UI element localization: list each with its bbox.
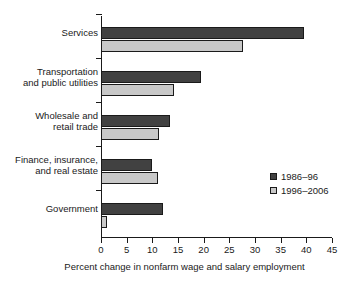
- bar-0: [101, 115, 170, 127]
- x-axis-tick: [178, 238, 179, 243]
- category-label: Transportationand public utilities: [0, 66, 98, 89]
- bar-group: [101, 196, 332, 240]
- category-label-line: retail trade: [0, 121, 98, 133]
- y-axis-tick: [96, 146, 102, 147]
- x-axis-tick: [101, 238, 102, 243]
- category-label-line: and public utilities: [0, 77, 98, 89]
- y-axis-tick: [96, 102, 102, 103]
- category-label-line: and real estate: [0, 165, 98, 177]
- y-axis-tick: [96, 190, 102, 191]
- bar-1: [101, 84, 174, 96]
- bar-0: [101, 71, 201, 83]
- y-axis-tick: [96, 14, 102, 15]
- legend-swatch-icon: [270, 173, 277, 180]
- x-axis-tick-label: 45: [317, 244, 347, 255]
- legend-item: 1986–96: [270, 169, 329, 183]
- bar-0: [101, 203, 163, 215]
- category-label-line: Transportation: [0, 66, 98, 78]
- x-axis-tick: [204, 238, 205, 243]
- category-label: Wholesale andretail trade: [0, 110, 98, 133]
- bar-group: [101, 20, 332, 64]
- legend-swatch-icon: [270, 187, 277, 194]
- x-axis-title: Percent change in nonfarm wage and salar…: [0, 261, 351, 272]
- category-label-line: Government: [0, 203, 98, 215]
- category-label: Finance, insurance,and real estate: [0, 154, 98, 177]
- category-label-line: Wholesale and: [0, 110, 98, 122]
- legend-label: 1986–96: [281, 171, 318, 182]
- x-axis-tick: [152, 238, 153, 243]
- bar-1: [101, 128, 159, 140]
- x-axis-tick: [255, 238, 256, 243]
- category-label: Services: [0, 27, 98, 39]
- bar-1: [101, 172, 158, 184]
- legend-label: 1996–2006: [281, 185, 329, 196]
- x-axis-tick: [332, 238, 333, 243]
- bar-group: [101, 108, 332, 152]
- x-axis-tick: [127, 238, 128, 243]
- bar-1: [101, 40, 243, 52]
- category-label: Government: [0, 203, 98, 215]
- category-label-line: Finance, insurance,: [0, 154, 98, 166]
- category-label-line: Services: [0, 27, 98, 39]
- x-axis-tick: [281, 238, 282, 243]
- x-axis-tick: [306, 238, 307, 243]
- y-axis-tick: [96, 58, 102, 59]
- legend: 1986–961996–2006: [270, 169, 329, 197]
- bar-1: [101, 216, 107, 228]
- bar-group: [101, 64, 332, 108]
- x-axis-tick: [229, 238, 230, 243]
- bar-0: [101, 159, 152, 171]
- legend-item: 1996–2006: [270, 183, 329, 197]
- plot-area: [101, 16, 332, 237]
- bar-0: [101, 27, 304, 39]
- bar-chart: ServicesTransportationand public utiliti…: [0, 0, 351, 282]
